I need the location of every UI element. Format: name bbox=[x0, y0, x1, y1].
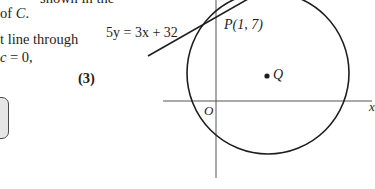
point-q-dot bbox=[264, 73, 269, 78]
point-p-label: P(1, 7) bbox=[224, 18, 263, 32]
point-q-label: Q bbox=[273, 68, 283, 82]
x-axis-label: x bbox=[369, 100, 375, 113]
tangent-equation-text: 5y = 3x + 32 bbox=[106, 25, 178, 40]
tangent-equation-label: 5y = 3x + 32 bbox=[106, 26, 178, 40]
origin-label: O bbox=[204, 104, 213, 117]
